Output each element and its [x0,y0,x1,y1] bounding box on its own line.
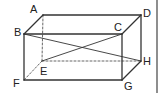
vertex-label-f: F [13,77,20,89]
edge-cd [122,15,141,34]
edge-gh [122,61,141,80]
prism-svg: A B C D E F G H [0,0,163,93]
vertex-label-c: C [114,21,122,33]
edge-ab [24,15,43,34]
vertex-label-b: B [14,26,21,38]
prism-diagram: A B C D E F G H [0,0,163,93]
vertex-label-g: G [124,80,133,92]
vertex-label-a: A [30,3,38,15]
diagonal-ce [42,34,122,61]
vertex-label-h: H [143,55,151,67]
vertex-label-e: E [40,65,47,77]
vertex-label-d: D [143,7,151,19]
